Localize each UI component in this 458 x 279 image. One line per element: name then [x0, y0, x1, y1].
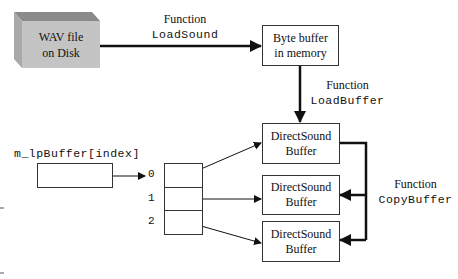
disk-side-face — [14, 12, 22, 68]
ds-label-2: Buffer — [271, 242, 332, 257]
ds-label-2: Buffer — [271, 195, 332, 210]
function-word: Function — [378, 177, 453, 192]
disk-front-face: WAV file on Disk — [22, 21, 100, 68]
loadbuffer-caption: Function LoadBuffer — [310, 78, 385, 108]
ds-label-1: DirectSound — [271, 180, 332, 195]
copybuffer-caption: Function CopyBuffer — [378, 177, 453, 207]
index-2: 2 — [148, 215, 155, 227]
copybuffer-bracket — [339, 143, 366, 240]
ds-label-1: DirectSound — [271, 129, 332, 144]
wav-label-1: WAV file — [39, 29, 84, 45]
function-name: LoadSound — [140, 27, 230, 42]
array-cell-1 — [164, 187, 203, 211]
ds-label-2: Buffer — [271, 144, 332, 159]
byte-buffer-label-1: Byte buffer — [273, 31, 328, 46]
directsound-buffer-2: DirectSound Buffer — [262, 221, 340, 262]
byte-buffer-node: Byte buffer in memory — [262, 25, 339, 66]
disk-top-face — [14, 12, 100, 21]
directsound-buffer-1: DirectSound Buffer — [262, 175, 340, 215]
array-cell-2 — [164, 210, 203, 235]
index-1: 1 — [148, 192, 155, 204]
loadsound-caption: Function LoadSound — [140, 12, 230, 42]
pointer-label: m_lpBuffer[index] — [14, 146, 140, 161]
wav-label-2: on Disk — [39, 45, 84, 61]
function-word: Function — [140, 12, 230, 27]
wav-disk-node: WAV file on Disk — [14, 12, 100, 68]
array-cell-0 — [164, 163, 203, 188]
pointer-variable-box — [37, 163, 113, 188]
function-word: Function — [310, 78, 385, 93]
function-name: LoadBuffer — [310, 93, 385, 108]
directsound-buffer-0: DirectSound Buffer — [262, 123, 340, 164]
ds-label-1: DirectSound — [271, 227, 332, 242]
byte-buffer-label-2: in memory — [273, 46, 328, 61]
index-0: 0 — [148, 168, 155, 180]
function-name: CopyBuffer — [378, 192, 453, 207]
